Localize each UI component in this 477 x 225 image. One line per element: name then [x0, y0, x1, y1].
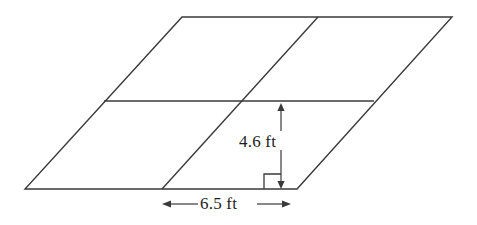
- height-arrowhead-up: [277, 103, 284, 111]
- height-dimension-arrow: [277, 103, 284, 189]
- height-dimension-label: 4.6 ft: [239, 133, 276, 150]
- slanted-midline: [162, 17, 318, 189]
- parallelogram-diagram-canvas: [0, 0, 477, 225]
- base-arrowhead-right: [282, 201, 291, 208]
- outer-parallelogram: [25, 17, 452, 189]
- geometry-figure: 4.6 ft 6.5 ft: [0, 0, 477, 225]
- height-arrowhead-down: [277, 181, 284, 189]
- base-dimension-label: 6.5 ft: [200, 195, 237, 212]
- base-arrowhead-left: [162, 201, 171, 208]
